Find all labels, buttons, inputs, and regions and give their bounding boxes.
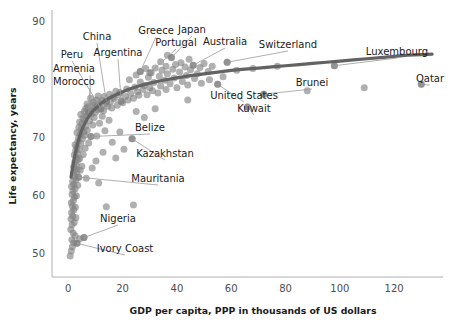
- data-point: [176, 69, 183, 76]
- x-tick-label: 0: [65, 283, 71, 294]
- annotation-label-united-states: United States: [210, 90, 278, 101]
- annotation-label-china: China: [83, 31, 112, 42]
- x-tick-label: 100: [330, 283, 349, 294]
- data-point: [85, 139, 92, 146]
- data-point: [112, 155, 119, 162]
- data-point: [220, 73, 227, 80]
- data-point: [78, 163, 85, 170]
- leader-line-switzerland: [227, 51, 288, 62]
- leader-line-nigeria: [84, 225, 118, 238]
- annotation-label-armenia: Armenia: [53, 63, 95, 74]
- annotation-label-greece: Greece: [138, 25, 174, 36]
- data-point: [95, 92, 102, 99]
- annotation-label-ivory-coast: Ivory Coast: [97, 243, 154, 254]
- y-tick-label: 90: [32, 16, 45, 27]
- data-point: [89, 164, 96, 171]
- annotation-label-kuwait: Kuwait: [237, 103, 270, 114]
- data-point: [106, 117, 113, 124]
- data-point: [184, 96, 191, 103]
- trend-line: [71, 54, 432, 177]
- annotation-label-luxembourg: Luxembourg: [366, 46, 428, 57]
- leader-line-australia: [193, 48, 225, 65]
- annotation-label-belize: Belize: [135, 122, 165, 133]
- y-tick-label: 50: [32, 248, 45, 259]
- y-tick-label: 70: [32, 132, 45, 143]
- x-tick-label: 120: [385, 283, 404, 294]
- y-tick-label: 80: [32, 74, 45, 85]
- annotation-label-qatar: Qatar: [416, 73, 445, 84]
- data-point-switzerland: [224, 59, 231, 66]
- data-point: [126, 76, 133, 83]
- scatter-points: [67, 52, 425, 260]
- x-axis-tick-labels: 020406080100120: [65, 283, 404, 294]
- chart-canvas: 020406080100120 5060708090 ChinaGreeceJa…: [0, 0, 461, 328]
- y-tick-label: 60: [32, 190, 45, 201]
- data-point: [103, 203, 110, 210]
- annotation-label-morocco: Morocco: [53, 76, 95, 87]
- annotation-label-peru: Peru: [61, 49, 83, 60]
- data-point: [157, 83, 164, 90]
- annotation-label-australia: Australia: [203, 36, 247, 47]
- x-tick-label: 60: [225, 283, 238, 294]
- data-point: [96, 120, 103, 127]
- annotation-label-nigeria: Nigeria: [100, 213, 136, 224]
- data-point: [177, 59, 184, 66]
- y-axis-tick-labels: 5060708090: [32, 16, 45, 259]
- data-point: [152, 105, 159, 112]
- data-point: [186, 56, 193, 63]
- data-point: [95, 179, 102, 186]
- annotation-label-switzerland: Switzerland: [259, 39, 317, 50]
- data-point: [361, 84, 368, 91]
- life-expectancy-gdp-scatter-chart: 020406080100120 5060708090 ChinaGreeceJa…: [0, 0, 461, 328]
- data-point: [141, 114, 148, 121]
- lowess-trend-line: [71, 54, 432, 177]
- annotation-label-argentina: Argentina: [94, 47, 143, 58]
- annotation-label-kazakhstan: Kazakhstan: [136, 148, 194, 159]
- data-point: [100, 149, 107, 156]
- x-tick-label: 40: [171, 283, 184, 294]
- x-tick-label: 80: [279, 283, 292, 294]
- x-axis-title: GDP per capita, PPP in thousands of US d…: [130, 305, 377, 316]
- data-point: [206, 76, 213, 83]
- data-point: [116, 128, 123, 135]
- data-point: [173, 84, 180, 91]
- data-point: [198, 80, 205, 87]
- data-point: [101, 127, 108, 134]
- data-point: [133, 108, 140, 115]
- data-point: [163, 63, 170, 70]
- data-point: [157, 58, 164, 65]
- data-point: [92, 157, 99, 164]
- x-tick-label: 20: [116, 283, 129, 294]
- data-point: [99, 113, 106, 120]
- annotation-label-brunei: Brunei: [296, 77, 329, 88]
- data-point: [120, 146, 127, 153]
- annotation-label-japan: Japan: [177, 24, 206, 35]
- y-axis-title: Life expectancy, years: [7, 87, 18, 205]
- data-point: [304, 87, 311, 94]
- annotation-label-portugal: Portugal: [155, 37, 196, 48]
- data-point: [109, 139, 116, 146]
- data-point: [130, 202, 137, 209]
- annotation-label-mauritania: Mauritania: [131, 173, 184, 184]
- data-point: [209, 63, 216, 70]
